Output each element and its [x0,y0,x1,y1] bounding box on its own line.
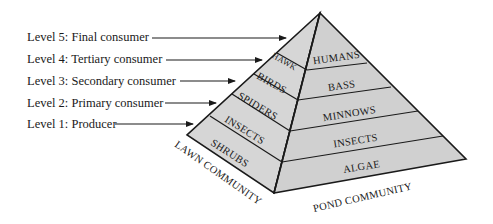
food-pyramid-diagram: Level 5: Final consumer Level 4: Tertiar… [0,0,493,224]
pond-community-label: POND COMMUNITY [312,180,413,214]
pyramid-graphic: HAWK BIRDS SPIDERS INSECTS SHRUBS HUMANS… [0,0,493,224]
